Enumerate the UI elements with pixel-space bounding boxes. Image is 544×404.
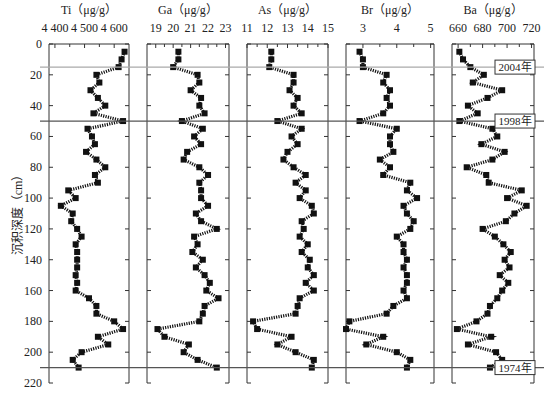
data-point-marker (497, 272, 503, 278)
data-point-marker (481, 72, 487, 78)
data-point-marker (83, 149, 89, 155)
x-tick-label: 4 600 (101, 21, 128, 35)
data-point-marker (394, 234, 400, 240)
depth-tick-label: 100 (24, 191, 42, 205)
depth-tick-label: 140 (24, 253, 42, 267)
data-point-marker (504, 195, 510, 201)
data-point-marker (380, 80, 386, 86)
data-point-marker (268, 49, 274, 55)
data-point-marker (216, 295, 222, 301)
data-point-marker (488, 334, 494, 340)
data-point-marker (86, 295, 92, 301)
data-point-marker (74, 226, 80, 232)
data-point-marker (65, 187, 71, 193)
reference-label: 2004年 (499, 60, 532, 73)
data-point-marker (200, 257, 206, 263)
data-point-marker (73, 241, 79, 247)
data-point-marker (486, 180, 492, 186)
depth-tick-label: 120 (24, 222, 42, 236)
data-point-marker (289, 133, 295, 139)
data-point-marker (500, 241, 506, 247)
data-point-marker (95, 95, 101, 101)
data-point-marker (161, 334, 167, 340)
data-point-marker (404, 280, 410, 286)
data-point-marker (494, 295, 500, 301)
data-point-marker (74, 280, 80, 286)
data-point-marker (87, 87, 93, 93)
data-point-marker (299, 110, 305, 116)
data-point-marker (196, 80, 202, 86)
x-tick-label: 14 (302, 21, 314, 35)
data-point-marker (343, 326, 349, 332)
data-point-marker (95, 334, 101, 340)
data-point-marker (303, 187, 309, 193)
panel-title: Ba（μg/g） (463, 3, 522, 17)
data-point-marker (503, 218, 509, 224)
data-point-marker (480, 226, 486, 232)
data-point-marker (102, 164, 108, 170)
data-point-marker (191, 133, 197, 139)
data-point-marker (297, 234, 303, 240)
data-point-marker (92, 172, 98, 178)
x-tick-label: 19 (150, 21, 162, 35)
data-point-marker (95, 180, 101, 186)
x-tick-label: 21 (185, 21, 197, 35)
data-point-marker (291, 103, 297, 109)
data-point-marker (454, 326, 460, 332)
geochemical-depth-profile-chart: 020406080100120140160180200220 沉积深度（cm） … (0, 0, 544, 404)
data-point-marker (295, 141, 301, 147)
data-point-marker (299, 249, 305, 255)
series-line (346, 52, 417, 368)
data-point-marker (189, 249, 195, 255)
element-panels: Ti（μg/g）4 4004 5004 600Ga（μg/g）192021222… (41, 3, 540, 383)
data-point-marker (285, 149, 291, 155)
data-point-marker (346, 318, 352, 324)
depth-tick-label: 80 (30, 160, 42, 174)
data-point-marker (478, 141, 484, 147)
series-line (253, 52, 314, 368)
data-point-marker (301, 226, 307, 232)
data-point-marker (407, 180, 413, 186)
x-tick-label: 4 500 (71, 21, 98, 35)
data-point-marker (198, 195, 204, 201)
data-point-marker (191, 234, 197, 240)
data-point-marker (205, 172, 211, 178)
series-line (157, 52, 218, 368)
depth-tick-label: 60 (30, 129, 42, 143)
data-point-marker (311, 211, 317, 217)
data-point-marker (404, 211, 410, 217)
data-point-marker (205, 203, 211, 209)
data-point-marker (307, 257, 313, 263)
x-tick-label: 12 (261, 21, 273, 35)
data-point-marker (404, 272, 410, 278)
data-point-marker (200, 126, 206, 132)
data-point-marker (274, 341, 280, 347)
data-point-marker (154, 326, 160, 332)
data-point-marker (456, 49, 462, 55)
depth-tick-label: 180 (24, 314, 42, 328)
data-point-marker (473, 318, 479, 324)
data-point-marker (401, 249, 407, 255)
data-point-marker (74, 257, 80, 263)
data-point-marker (299, 218, 305, 224)
data-point-marker (93, 311, 99, 317)
data-point-marker (489, 126, 495, 132)
data-point-marker (499, 87, 505, 93)
data-point-marker (92, 141, 98, 147)
x-tick-label: 11 (241, 21, 253, 35)
data-point-marker (297, 195, 303, 201)
data-point-marker (85, 126, 91, 132)
x-tick-label: 4 400 (41, 21, 68, 35)
data-point-marker (465, 341, 471, 347)
data-point-marker (291, 164, 297, 170)
data-point-marker (499, 288, 505, 294)
data-point-marker (58, 203, 64, 209)
data-point-marker (93, 303, 99, 309)
data-point-marker (175, 56, 181, 62)
data-point-marker (305, 241, 311, 247)
data-point-marker (291, 72, 297, 78)
data-point-marker (464, 164, 470, 170)
data-point-marker (492, 234, 498, 240)
data-point-marker (74, 249, 80, 255)
data-point-marker (502, 257, 508, 263)
